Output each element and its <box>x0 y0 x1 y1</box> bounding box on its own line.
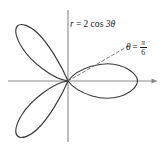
x-axis <box>8 79 158 84</box>
equation-argument: 3θ <box>106 19 116 29</box>
polar-equation-label: r = 2 cos 3θ <box>70 20 115 30</box>
theta-ray <box>68 45 130 81</box>
fraction-numerator: π <box>140 39 146 47</box>
pi-over-six-fraction: π 6 <box>140 39 147 56</box>
theta-equals-sign: = <box>132 43 137 53</box>
theta-ray-label: θ = π 6 <box>126 39 147 56</box>
equation-function: cos <box>90 19 103 29</box>
x-axis-arrow-icon <box>152 79 158 84</box>
lower-left-petal <box>16 81 68 137</box>
polar-plot-figure: r = 2 cos 3θ θ = π 6 <box>0 0 165 156</box>
theta-variable: θ <box>126 43 131 53</box>
upper-left-petal <box>16 25 68 81</box>
fraction-denominator: 6 <box>140 48 146 56</box>
theta-ray-dashed-line <box>68 45 130 81</box>
